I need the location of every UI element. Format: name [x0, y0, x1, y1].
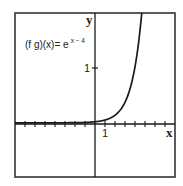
y-tick-label-1: 1	[84, 62, 90, 74]
x-tick-label-1: 1	[102, 127, 108, 139]
x-axis-label: x	[166, 125, 173, 140]
function-label-base: (f g)(x)= e	[25, 39, 69, 50]
function-label: (f g)(x)= ex − 4	[25, 37, 85, 50]
function-label-exponent: x − 4	[71, 37, 86, 44]
y-axis-label: y	[86, 12, 93, 27]
function-curve	[15, 13, 142, 123]
function-graph: 1 1 y x (f g)(x)= ex − 4	[0, 0, 183, 186]
